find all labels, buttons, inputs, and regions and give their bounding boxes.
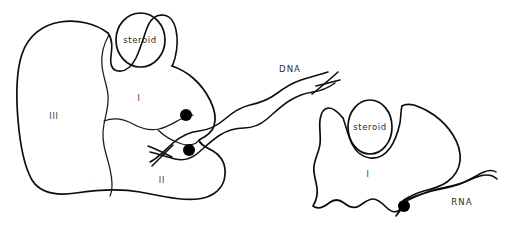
right-receptor-outline bbox=[313, 104, 460, 211]
figure-canvas: III I II . steroid DNA bbox=[0, 0, 508, 234]
dna-strand-a bbox=[150, 72, 328, 162]
rna-strand-group: RNA bbox=[396, 171, 497, 217]
right-binding-site-group bbox=[398, 200, 410, 212]
dna-label: DNA bbox=[279, 64, 301, 74]
left-artifact-speck: . bbox=[88, 173, 90, 181]
rna-label: RNA bbox=[451, 197, 472, 207]
left-domain-I-label: I bbox=[137, 94, 140, 103]
left-receptor-group: III I II . steroid bbox=[17, 13, 225, 199]
left-domain-III-label: III bbox=[49, 112, 58, 121]
right-domain-I-label: I bbox=[366, 170, 369, 179]
binding-site-lower-dot bbox=[183, 144, 195, 156]
left-receptor-outline bbox=[17, 21, 225, 199]
right-receptor-group: steroid I bbox=[313, 100, 460, 212]
right-steroid-label: steroid bbox=[353, 122, 386, 132]
dna-double-helix-group: DNA bbox=[148, 64, 340, 166]
binding-site-rna-dot bbox=[398, 200, 410, 212]
left-domain-I-II-boundary bbox=[104, 115, 193, 130]
rna-strand-main bbox=[399, 175, 497, 205]
right-steroid-pocket-wall-left bbox=[343, 106, 402, 158]
binding-site-upper-dot bbox=[180, 109, 192, 121]
left-steroid-label: steroid bbox=[123, 35, 156, 45]
diagram-svg: III I II . steroid DNA bbox=[0, 0, 508, 234]
left-domain-II-label: II bbox=[159, 176, 165, 185]
